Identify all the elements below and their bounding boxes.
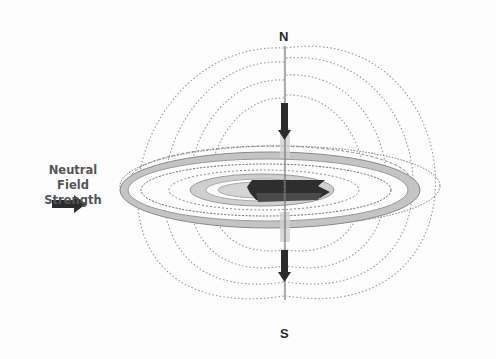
label-line-3: Strength [38,193,108,208]
south-pole-label: S [280,326,289,341]
label-line-1: Neutral [38,163,108,178]
label-line-2: Field [38,178,108,193]
neutral-field-strength-label: Neutral Field Strength [38,163,108,208]
diagram-canvas: N S Neutral Field Strength [0,0,496,359]
north-pole-label: N [279,29,288,44]
central-core [247,180,330,202]
